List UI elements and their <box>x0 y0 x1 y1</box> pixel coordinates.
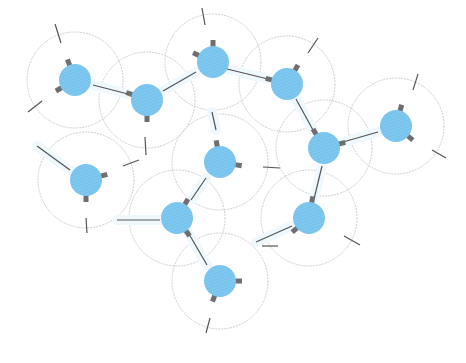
molecule-n8 <box>204 140 242 178</box>
dangling-bond <box>206 318 210 333</box>
oxygen-sphere <box>293 202 325 234</box>
oxygen-sphere <box>204 146 236 178</box>
dangling-bond <box>263 167 280 168</box>
molecule-network-diagram <box>0 0 466 363</box>
dangling-bond <box>86 218 87 233</box>
hydrogen-stub <box>212 295 214 302</box>
oxygen-sphere <box>380 110 412 142</box>
molecule-n11 <box>204 265 242 302</box>
molecule-n7 <box>70 164 107 202</box>
hydrogen-stub <box>292 228 297 232</box>
oxygen-sphere <box>308 132 340 164</box>
hydrogen-stub <box>338 142 345 144</box>
hydrogen-stub <box>216 140 217 147</box>
dangling-bond <box>202 8 205 25</box>
hydrogen-stub <box>313 129 317 135</box>
oxygen-sphere <box>204 265 236 297</box>
dangling-bond <box>145 137 146 155</box>
hydrogen-stub <box>295 65 299 71</box>
hydrogen-stub <box>407 136 412 140</box>
molecule-n10 <box>292 196 325 234</box>
hydrogen-stub <box>100 174 107 176</box>
molecule-n5 <box>380 105 413 142</box>
hydrogen-stub <box>400 105 402 112</box>
dangling-bond <box>28 101 42 112</box>
oxygen-sphere <box>197 46 229 78</box>
dangling-bond <box>432 150 446 158</box>
oxygen-sphere <box>70 164 102 196</box>
dangling-bond <box>123 160 139 166</box>
hydrogen-stub <box>56 88 62 92</box>
molecule-n9 <box>161 199 193 236</box>
diagram-canvas <box>0 0 466 363</box>
molecule-layer <box>56 40 413 302</box>
dangling-bond <box>55 24 61 43</box>
bond-line <box>256 226 292 242</box>
oxygen-sphere <box>59 64 91 96</box>
bond-line <box>37 146 70 170</box>
molecule-n2 <box>126 84 163 122</box>
oxygen-sphere <box>271 68 303 100</box>
hydrogen-stub <box>186 230 190 236</box>
molecule-n1 <box>56 59 91 96</box>
hydrogen-stub <box>235 165 242 166</box>
oxygen-sphere <box>131 84 163 116</box>
hydrogen-stub <box>67 59 69 66</box>
molecule-n4 <box>266 65 303 100</box>
hydrogen-stub <box>185 199 189 205</box>
hydrogen-stub <box>312 196 313 203</box>
dangling-bond <box>413 74 418 90</box>
oxygen-sphere <box>161 202 193 234</box>
molecule-n6 <box>308 129 345 164</box>
hydrogen-stub <box>126 92 133 94</box>
hydrogen-stub <box>266 78 273 80</box>
dangling-bond <box>344 236 360 245</box>
dangling-bond <box>308 38 318 53</box>
hydrogen-stub <box>193 53 199 56</box>
